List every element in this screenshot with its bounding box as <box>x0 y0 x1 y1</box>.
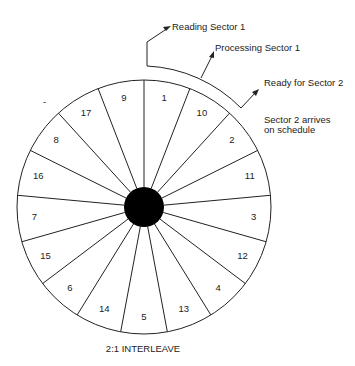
disk-hub <box>124 187 164 227</box>
reading-sector-label: Reading Sector 1 <box>172 21 245 32</box>
sector-divider <box>155 224 211 315</box>
sector-divider <box>148 227 168 332</box>
processing-sector-label: Processing Sector 1 <box>215 42 300 53</box>
processing-arrow <box>201 54 213 78</box>
sector-divider <box>162 150 258 198</box>
sector-number: 8 <box>54 134 59 145</box>
sector-number: 15 <box>40 250 51 261</box>
sector-divider <box>160 219 245 283</box>
stray-mark: - <box>43 96 46 107</box>
sector-divider <box>151 89 190 189</box>
ready-arrow <box>241 92 256 108</box>
sector-number: 4 <box>215 282 220 293</box>
sector-divider <box>121 227 141 332</box>
sector-divider <box>30 150 126 198</box>
sector-divider <box>77 224 133 315</box>
sector-divider <box>18 195 125 205</box>
sector-number: 1 <box>162 92 167 103</box>
processing-arrowhead-icon <box>209 51 214 58</box>
sector-number: 10 <box>197 107 208 118</box>
diagram-caption: 2:1 INTERLEAVE <box>106 343 180 354</box>
sector-divider <box>43 219 128 283</box>
reading-arrow <box>147 28 168 66</box>
sector-number: 11 <box>245 170 255 181</box>
sector-divider <box>157 113 229 192</box>
sector-number: 12 <box>237 250 248 261</box>
sector-number: 13 <box>178 303 189 314</box>
sector-number: 2 <box>229 134 234 145</box>
sector-number: 6 <box>67 282 72 293</box>
sector-divider <box>22 212 125 241</box>
sector-number: 16 <box>33 170 44 181</box>
sector-number: 9 <box>121 92 126 103</box>
arrives-label-line2: on schedule <box>264 124 315 135</box>
sector-number: 3 <box>251 211 256 222</box>
sector-divider <box>58 113 130 192</box>
ready-sector-label: Ready for Sector 2 <box>264 77 343 88</box>
sector-divider <box>164 195 271 205</box>
sector-number: 17 <box>81 107 92 118</box>
sector-number: 5 <box>141 311 146 322</box>
sector-number: 14 <box>99 303 110 314</box>
interleave-disk-diagram: 1102113124135146157168179 Reading Sector… <box>0 0 355 366</box>
sector-divider <box>98 89 137 189</box>
sector-number: 7 <box>32 211 37 222</box>
